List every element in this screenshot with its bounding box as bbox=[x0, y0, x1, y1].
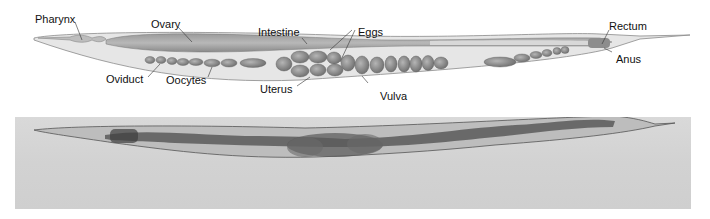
label-pharynx: Pharynx bbox=[35, 13, 75, 25]
intestine-light bbox=[430, 40, 590, 45]
label-ovary: Ovary bbox=[151, 18, 180, 30]
label-rectum: Rectum bbox=[609, 20, 647, 32]
rectum bbox=[588, 38, 610, 48]
worm-schematic bbox=[0, 0, 710, 112]
label-anus: Anus bbox=[616, 53, 641, 65]
label-oocytes: Oocytes bbox=[166, 74, 206, 86]
micrograph-panel bbox=[15, 117, 691, 209]
worm-micrograph bbox=[15, 117, 691, 209]
label-intestine: Intestine bbox=[258, 26, 300, 38]
label-oviduct: Oviduct bbox=[106, 73, 143, 85]
schematic-diagram: Pharynx Ovary Intestine Eggs Rectum Anus… bbox=[0, 0, 710, 112]
label-eggs: Eggs bbox=[358, 26, 383, 38]
label-vulva: Vulva bbox=[380, 90, 407, 102]
label-uterus: Uterus bbox=[260, 83, 292, 95]
